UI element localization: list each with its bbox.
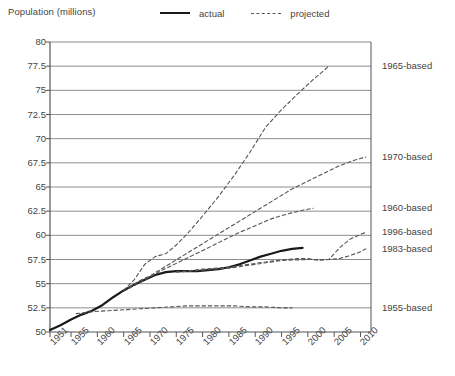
series-line-1955-based	[76, 306, 292, 314]
series-line-1965-based	[124, 66, 329, 290]
series-line-1996-based	[176, 232, 365, 272]
series-line-1970-based	[129, 157, 366, 288]
population-projection-chart: Population (millions) actual projected 5…	[0, 0, 455, 376]
series-line-actual	[50, 248, 303, 330]
series-line-1960-based	[129, 208, 313, 288]
plot-area	[0, 0, 455, 376]
